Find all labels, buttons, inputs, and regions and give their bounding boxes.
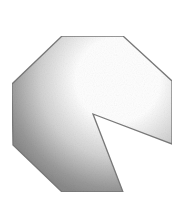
shape-svg: [0, 0, 187, 197]
diagram-canvas: [0, 0, 187, 197]
notched-octagon: [12, 36, 172, 192]
